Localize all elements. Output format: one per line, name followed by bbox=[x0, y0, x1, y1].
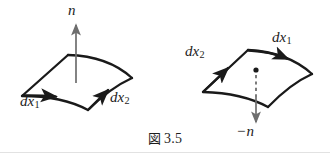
right-tangent-dx1-label-subscript: 1 bbox=[286, 35, 291, 46]
right-tangent-dx1-label: dx1 bbox=[272, 30, 291, 46]
left-tangent-dx2-arrow bbox=[89, 90, 108, 109]
left-tangent-dx2-label-subscript: 2 bbox=[124, 95, 129, 106]
bottom-rule bbox=[0, 152, 330, 153]
figure-caption-marker: 図 bbox=[148, 131, 161, 146]
right-base-point-dot bbox=[253, 67, 258, 72]
left-tangent-dx2-label-base: dx bbox=[110, 89, 124, 105]
right-tangent-dx2-label: dx2 bbox=[185, 44, 204, 60]
left-tangent-dx1-label-base: dx bbox=[20, 93, 34, 109]
right-patch-edge-bottom-right bbox=[268, 74, 312, 107]
left-patch-edge-top-left bbox=[22, 55, 68, 96]
left-patch-edge-top-right bbox=[68, 55, 132, 78]
right-surface-patch bbox=[203, 50, 312, 107]
left-tangent-dx1-label: dx1 bbox=[20, 94, 39, 110]
right-patch-edge-bottom-left bbox=[203, 92, 268, 107]
figure-container: n dx1 dx2 dx2 dx1 −n 図3.5 bbox=[0, 0, 330, 156]
left-normal-label: n bbox=[68, 3, 76, 18]
left-tangent-dx2-label: dx2 bbox=[110, 90, 129, 106]
left-tangent-dx1-label-subscript: 1 bbox=[34, 99, 39, 110]
right-tangent-dx2-label-base: dx bbox=[185, 43, 199, 59]
right-tangent-dx1-label-base: dx bbox=[272, 29, 286, 45]
right-tangent-dx1-arrow bbox=[249, 51, 288, 60]
right-tangent-dx2-label-subscript: 2 bbox=[199, 49, 204, 60]
figure-caption-number: 3.5 bbox=[164, 131, 182, 146]
figure-caption: 図3.5 bbox=[0, 128, 330, 147]
right-tangent-dx2-arrow bbox=[204, 68, 228, 91]
